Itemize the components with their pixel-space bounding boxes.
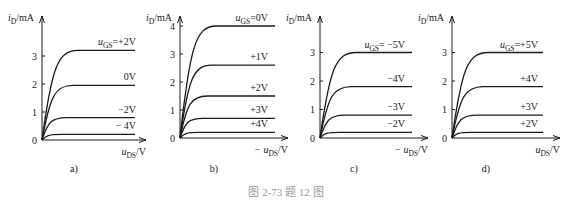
curve-label: +4V: [520, 73, 539, 84]
curve-+4V: [452, 87, 543, 138]
y-tick-label: 1: [310, 104, 315, 115]
figure-canvas: 图 2-73 题 12 图 iD/mAuDS/V0123uGS=+2V0V−2V…: [0, 0, 568, 207]
curve-label: 0V: [124, 71, 137, 82]
chart-panel-c: iD/mA− uDS/V0123uGS= −5V−4V−3V−2Vc): [286, 12, 429, 175]
axis-label: uDS/V: [535, 144, 560, 158]
chart-panel-a: iD/mAuDS/V0123uGS=+2V0V−2V− 4Va): [8, 12, 147, 175]
curve-label: −4V: [387, 73, 406, 84]
curve-label: uGS=+2V: [98, 36, 137, 50]
y-tick-label: 0: [442, 133, 447, 144]
curve-label: +3V: [250, 104, 269, 115]
axis-label: iD/mA: [146, 12, 173, 26]
chart-panel-b: iD/mA− uDS/V01234uGS=0V+1V+2V+3V+4Vb): [146, 12, 289, 175]
panel-label: a): [70, 163, 78, 175]
axis-label: uDS/V: [121, 146, 146, 160]
y-tick-label: 3: [32, 51, 37, 62]
y-tick-label: 2: [32, 79, 37, 90]
curve-label: uGS= −5V: [364, 39, 405, 53]
curve-label: +4V: [250, 118, 269, 129]
y-tick-label: 1: [170, 105, 175, 116]
panel-label: c): [350, 163, 358, 175]
curve--4V: [320, 87, 412, 138]
curve-+2V: [452, 132, 543, 138]
curve-label: −3V: [387, 101, 406, 112]
chart-panel-d: iD/mAuDS/V0123uGS=+5V+4V+3V+2Vd): [418, 12, 561, 175]
curve-label: +2V: [520, 118, 539, 129]
y-tick-label: 3: [442, 47, 447, 58]
axis-label: iD/mA: [8, 12, 35, 26]
y-tick-label: 4: [170, 21, 175, 32]
curve-label: −2V: [387, 118, 406, 129]
axis-label: iD/mA: [418, 12, 445, 26]
y-tick-label: 1: [32, 107, 37, 118]
curve--4V: [42, 134, 135, 140]
panel-label: d): [482, 163, 490, 175]
axis-label: − uDS/V: [394, 144, 429, 158]
panel-label: b): [210, 163, 218, 175]
curve-label: +2V: [250, 82, 269, 93]
y-tick-label: 2: [170, 77, 175, 88]
curve--2V: [320, 132, 412, 138]
axis-label: iD/mA: [286, 12, 313, 26]
curve-label: −2V: [118, 104, 137, 115]
figure-caption: 图 2-73 题 12 图: [248, 186, 323, 198]
y-tick-label: 2: [442, 76, 447, 87]
y-tick-label: 3: [310, 47, 315, 58]
curve-label: − 4V: [116, 120, 137, 131]
curve-label: uGS=0V: [236, 12, 269, 26]
y-tick-label: 0: [32, 135, 37, 146]
y-tick-label: 3: [170, 49, 175, 60]
curve-label: uGS=+5V: [500, 39, 539, 53]
curve-+4V: [180, 132, 275, 138]
y-tick-label: 2: [310, 76, 315, 87]
curve-+2V: [180, 96, 275, 138]
y-tick-label: 0: [170, 133, 175, 144]
curve-label: +3V: [520, 101, 539, 112]
y-tick-label: 1: [442, 104, 447, 115]
y-tick-label: 0: [310, 133, 315, 144]
curve-label: +1V: [250, 51, 269, 62]
axis-label: − uDS/V: [254, 144, 289, 158]
